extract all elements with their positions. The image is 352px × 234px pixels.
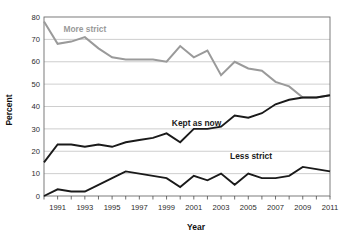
series-label-less-strict: Less strict bbox=[230, 151, 272, 161]
data-series bbox=[44, 21, 330, 196]
x-tick-label-2003: 2003 bbox=[213, 203, 230, 212]
series-label-more-strict: More strict bbox=[63, 24, 106, 34]
y-axis-title: Percent bbox=[4, 94, 14, 125]
x-tick-label-2011: 2011 bbox=[322, 203, 338, 212]
y-axis-tick-labels: 01020304050607080 bbox=[32, 13, 40, 201]
y-tick-label-70: 70 bbox=[32, 35, 40, 44]
x-tick-label-2007: 2007 bbox=[267, 203, 284, 212]
y-tick-label-80: 80 bbox=[32, 13, 40, 22]
y-tick-label-0: 0 bbox=[36, 192, 40, 201]
x-axis-tick-labels: 1991199319951997199920012003200520072009… bbox=[49, 203, 338, 212]
x-tick-label-2001: 2001 bbox=[185, 203, 202, 212]
y-tick-label-60: 60 bbox=[32, 57, 40, 66]
x-tick-label-1995: 1995 bbox=[104, 203, 121, 212]
y-tick-label-50: 50 bbox=[32, 80, 40, 89]
x-tick-label-2009: 2009 bbox=[294, 203, 311, 212]
y-tick-label-20: 20 bbox=[32, 147, 40, 156]
y-tick-label-30: 30 bbox=[32, 125, 40, 134]
line-chart: 01020304050607080 1991199319951997199920… bbox=[0, 0, 352, 234]
x-axis-title: Year bbox=[187, 222, 206, 232]
y-tick-label-40: 40 bbox=[32, 102, 40, 111]
x-axis-tickmarks bbox=[44, 196, 330, 200]
series-line-less-strict bbox=[44, 167, 330, 196]
x-tick-label-1997: 1997 bbox=[131, 203, 148, 212]
gridlines bbox=[44, 39, 330, 173]
y-tick-label-10: 10 bbox=[32, 169, 40, 178]
x-tick-label-2005: 2005 bbox=[240, 203, 257, 212]
chart-canvas: 01020304050607080 1991199319951997199920… bbox=[0, 0, 352, 234]
x-tick-label-1999: 1999 bbox=[158, 203, 175, 212]
series-label-kept-as-now: Kept as now bbox=[172, 118, 222, 128]
x-tick-label-1993: 1993 bbox=[76, 203, 93, 212]
x-tick-label-1991: 1991 bbox=[49, 203, 66, 212]
